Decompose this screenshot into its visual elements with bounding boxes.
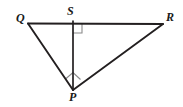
segment-rp: [73, 24, 163, 90]
right-angle-mark-at-s: [73, 24, 82, 33]
vertex-label-s: S: [67, 5, 74, 17]
geometry-figure: Q S R P: [0, 0, 183, 107]
segment-qr: [28, 24, 163, 25]
geometry-canvas: [0, 0, 183, 107]
vertex-label-r: R: [166, 11, 174, 23]
vertex-label-q: Q: [16, 12, 25, 24]
vertex-label-p: P: [69, 91, 76, 103]
segment-qp: [28, 24, 73, 91]
